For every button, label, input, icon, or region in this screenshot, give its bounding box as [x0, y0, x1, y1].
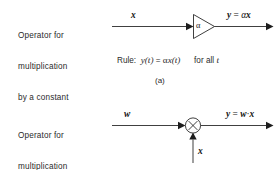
block-a-input-label: x	[131, 10, 136, 20]
block-b-input-arrowhead-x	[189, 133, 196, 140]
block-b-output-label: y = w·x	[226, 109, 254, 119]
block-b-input-label-w: w	[124, 109, 130, 119]
block-a-description: Operator for multiplication by a constan…	[18, 10, 69, 124]
block-a-output-label: y = αx	[227, 10, 251, 20]
block-a-rule-lhs: y(t)	[141, 55, 154, 65]
block-a-output-arrowhead	[266, 23, 274, 30]
block-a-rule-signal: x(t)	[168, 55, 181, 65]
block-a-gain-symbol: α	[196, 21, 200, 30]
block-a-rule-line: Rule: y(t) = αx(t) for all t	[117, 55, 219, 65]
block-b-input-label-x: x	[198, 146, 203, 156]
block-b-description-line-1: Operator for	[18, 131, 70, 141]
block-a-rule-qualifier: for all	[194, 56, 214, 65]
block-a-description-line-3: by a constant	[18, 93, 69, 103]
signal-operator-figure: Operator for multiplication by a constan…	[0, 0, 280, 170]
block-a-description-line-1: Operator for	[18, 31, 69, 41]
block-a-output-signal: x	[246, 10, 251, 20]
subfigure-caption-a: (a)	[155, 76, 165, 85]
block-b-description: Operator for multiplication of two signa…	[18, 110, 70, 170]
block-a-rule-prefix: Rule:	[117, 56, 136, 65]
block-a-input-arrowhead	[186, 23, 194, 30]
block-a-rule-qualifier-variable: t	[216, 55, 219, 65]
block-b-description-line-2: multiplication	[18, 162, 70, 170]
block-a-output-equals-sign: =	[231, 10, 241, 20]
block-a-description-line-2: multiplication	[18, 62, 69, 72]
block-b-input-arrowhead-w	[178, 122, 186, 129]
block-b-output-equals-sign: =	[230, 109, 240, 119]
block-b-output-second-operand: x	[250, 109, 255, 119]
block-b-output-arrowhead	[266, 122, 274, 129]
